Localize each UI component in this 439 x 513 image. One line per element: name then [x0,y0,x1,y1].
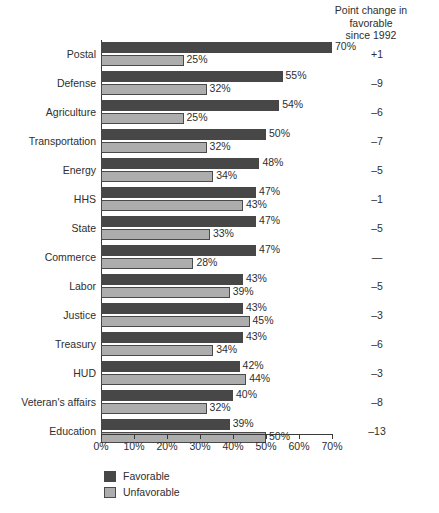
x-tick-label: 60% [288,440,309,452]
point-change-value: +1 [345,48,409,60]
x-tick-mark [332,435,333,439]
chart-row: 70%25% [101,40,332,69]
point-change-value: –7 [345,135,409,147]
bar-value-unfavorable: 44% [246,373,270,384]
header-line-2: favorable [311,17,431,30]
chart-row: 42%44% [101,359,332,388]
chart-row: 47%28% [101,243,332,272]
bar-value-unfavorable: 32% [207,141,231,152]
point-change-values: +1–9–6–7–5–1–5—–5–3–6–3–8–13 [345,40,439,434]
bar-unfavorable [101,142,207,153]
x-tick-mark [299,435,300,439]
bar-value-unfavorable: 28% [193,257,217,268]
bar-unfavorable [101,258,193,269]
legend-swatch-favorable-icon [104,471,116,482]
bar-value-favorable: 55% [283,70,307,81]
point-change-value: –1 [345,193,409,205]
x-tick-label: 20% [156,440,177,452]
bar-unfavorable [101,229,210,240]
bar-value-unfavorable: 34% [213,344,237,355]
category-label-hhs: HHS [0,193,96,205]
point-change-value: –5 [345,164,409,176]
point-change-column-header: Point change in favorable since 1992 [311,4,431,42]
legend-item-favorable: Favorable [104,468,180,484]
bar-value-unfavorable: 32% [207,402,231,413]
legend-item-unfavorable: Unfavorable [104,484,180,500]
chart-legend: Favorable Unfavorable [104,468,180,500]
bar-value-unfavorable: 39% [230,286,254,297]
chart-row: 50%32% [101,127,332,156]
point-change-value: –6 [345,338,409,350]
bar-value-favorable: 43% [243,302,267,313]
category-axis-labels: PostalDefenseAgricultureTransportationEn… [0,40,96,434]
bar-favorable [101,129,266,140]
category-label-treasury: Treasury [0,338,96,350]
bar-favorable [101,332,243,343]
bar-unfavorable [101,403,207,414]
x-tick-mark [101,435,102,439]
bar-value-favorable: 50% [266,128,290,139]
bar-unfavorable [101,200,243,211]
legend-swatch-unfavorable-icon [104,487,116,498]
bar-favorable [101,361,240,372]
x-tick-label: 10% [123,440,144,452]
bar-value-unfavorable: 32% [207,83,231,94]
category-label-education: Education [0,425,96,437]
bar-value-unfavorable: 25% [184,54,208,65]
bar-unfavorable [101,345,213,356]
category-label-state: State [0,222,96,234]
header-line-1: Point change in [311,4,431,17]
bar-value-favorable: 47% [256,244,280,255]
bar-unfavorable [101,55,184,66]
bar-value-favorable: 39% [230,418,254,429]
bar-value-favorable: 42% [240,360,264,371]
bar-value-unfavorable: 34% [213,170,237,181]
bar-value-unfavorable: 45% [250,315,274,326]
category-label-hud: HUD [0,367,96,379]
point-change-value: –5 [345,222,409,234]
grouped-bar-chart: PostalDefenseAgricultureTransportationEn… [0,40,439,440]
chart-row: 48%34% [101,156,332,185]
x-tick-label: 70% [321,440,342,452]
chart-row: 47%43% [101,185,332,214]
x-tick-mark [200,435,201,439]
legend-label-unfavorable: Unfavorable [123,486,180,498]
category-label-defense: Defense [0,77,96,89]
bar-favorable [101,390,233,401]
x-tick-mark [167,435,168,439]
bar-unfavorable [101,287,230,298]
category-label-agriculture: Agriculture [0,106,96,118]
bar-favorable [101,274,243,285]
point-change-value: –13 [345,425,409,437]
chart-row: 43%39% [101,272,332,301]
chart-row: 47%33% [101,214,332,243]
category-label-energy: Energy [0,164,96,176]
chart-row: 43%45% [101,301,332,330]
point-change-value: –3 [345,309,409,321]
bar-favorable [101,419,230,430]
category-label-transportation: Transportation [0,135,96,147]
point-change-value: –9 [345,77,409,89]
x-tick-mark [233,435,234,439]
bar-favorable [101,187,256,198]
bar-unfavorable [101,84,207,95]
x-axis-ticks: 0%10%20%30%40%50%60%70% [101,435,333,455]
x-tick-mark [266,435,267,439]
x-tick-mark [134,435,135,439]
bar-favorable [101,42,332,53]
bar-value-favorable: 47% [256,186,280,197]
chart-row: 43%34% [101,330,332,359]
bar-unfavorable [101,374,246,385]
bar-value-unfavorable: 25% [184,112,208,123]
chart-row: 55%32% [101,69,332,98]
point-change-value: –6 [345,106,409,118]
bar-favorable [101,100,279,111]
x-tick-label: 50% [255,440,276,452]
bar-unfavorable [101,113,184,124]
category-label-postal: Postal [0,48,96,60]
legend-label-favorable: Favorable [123,470,170,482]
point-change-value: –3 [345,367,409,379]
point-change-value: –5 [345,280,409,292]
bar-favorable [101,245,256,256]
bar-favorable [101,303,243,314]
